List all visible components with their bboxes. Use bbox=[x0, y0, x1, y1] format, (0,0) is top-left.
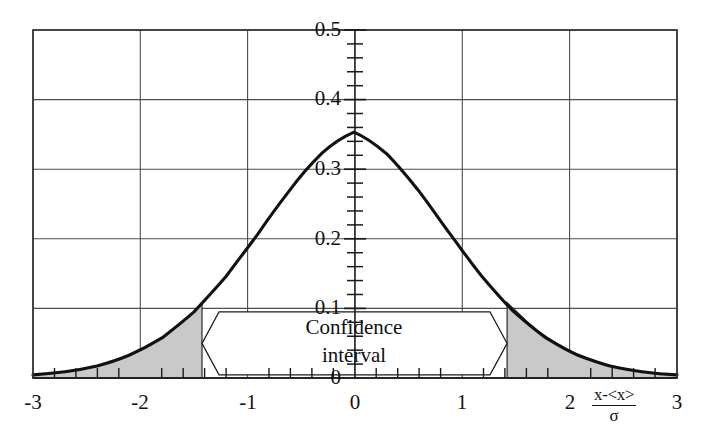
y-tick-label-0.4: 0.4 bbox=[281, 88, 341, 109]
y-tick-label-0.2: 0.2 bbox=[281, 228, 341, 249]
x-tick-label-1: 1 bbox=[442, 392, 482, 413]
confidence-interval-label-line2: interval bbox=[254, 344, 454, 368]
chart-canvas bbox=[0, 0, 703, 441]
x-tick-label-0: 0 bbox=[335, 392, 375, 413]
x-tick-label-2: 2 bbox=[550, 392, 590, 413]
normal-distribution-chart: 0.5 0.4 0.3 0.2 0.1 0 -3 -2 -1 0 1 2 3 x… bbox=[0, 0, 703, 441]
x-tick-label--1: -1 bbox=[228, 392, 268, 413]
y-tick-label-0.5: 0.5 bbox=[281, 19, 341, 40]
x-axis-label: x-<x> σ bbox=[592, 386, 636, 425]
shaded-region-right-tail bbox=[507, 303, 677, 378]
x-tick-label--2: -2 bbox=[120, 392, 160, 413]
x-axis-label-denominator: σ bbox=[592, 406, 636, 425]
x-tick-label-3: 3 bbox=[657, 392, 697, 413]
y-tick-label-0.3: 0.3 bbox=[281, 158, 341, 179]
x-axis-label-numerator: x-<x> bbox=[592, 386, 636, 406]
confidence-interval-label-line1: Confidence bbox=[254, 316, 454, 340]
shaded-region-left-tail bbox=[33, 304, 202, 378]
y-tick-label-0: 0 bbox=[281, 367, 341, 388]
x-tick-label--3: -3 bbox=[13, 392, 53, 413]
